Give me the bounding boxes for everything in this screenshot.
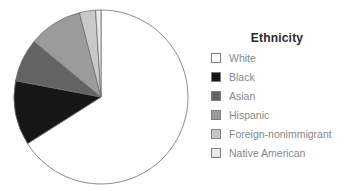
legend-swatch [211, 148, 221, 158]
legend-item: Asian [211, 91, 343, 101]
legend: Ethnicity WhiteBlackAsianHispanicForeign… [211, 31, 343, 158]
legend-title: Ethnicity [211, 31, 343, 45]
legend-swatch [211, 53, 221, 63]
legend-label: Hispanic [229, 109, 269, 121]
legend-swatch [211, 91, 221, 101]
legend-item: Black [211, 72, 343, 82]
legend-label: Native American [229, 147, 305, 159]
legend-swatch [211, 129, 221, 139]
legend-swatch [211, 72, 221, 82]
legend-item: Native American [211, 148, 343, 158]
legend-item: Hispanic [211, 110, 343, 120]
chart-container: Ethnicity WhiteBlackAsianHispanicForeign… [0, 0, 346, 191]
legend-items: WhiteBlackAsianHispanicForeign-nonimmigr… [211, 53, 343, 158]
legend-item: White [211, 53, 343, 63]
legend-swatch [211, 110, 221, 120]
legend-label: Black [229, 71, 255, 83]
legend-item: Foreign-nonimmigrant [211, 129, 343, 139]
legend-label: White [229, 52, 256, 64]
legend-label: Foreign-nonimmigrant [229, 128, 332, 140]
legend-label: Asian [229, 90, 255, 102]
